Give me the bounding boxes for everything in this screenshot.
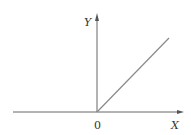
function-line xyxy=(97,38,169,112)
relu-diagram: Y 0 X xyxy=(0,0,191,135)
x-axis-arrow-icon xyxy=(177,110,184,114)
x-axis-label: X xyxy=(170,119,180,132)
y-axis-arrow-icon xyxy=(95,13,99,21)
origin-label: 0 xyxy=(94,119,101,132)
y-axis-label: Y xyxy=(84,16,93,29)
